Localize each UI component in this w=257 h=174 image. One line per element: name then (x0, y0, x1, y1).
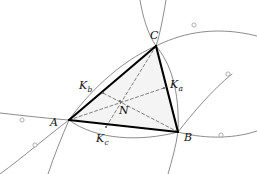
curve-marker-lower-left (33, 143, 37, 147)
label-b: B (183, 131, 192, 144)
label-a: A (49, 116, 58, 129)
point-kc (105, 126, 107, 128)
label-kc: Kc (95, 132, 110, 147)
curve-marker-upper-right (192, 23, 196, 27)
figure-canvas: ABCNKaKbKc (0, 0, 257, 174)
point-kb (102, 92, 104, 94)
point-ka (163, 87, 165, 89)
curve-marker-left (20, 118, 24, 122)
label-kb: Kb (78, 79, 93, 94)
curve-marker-lower-right (219, 133, 223, 137)
curve-B-down (168, 132, 178, 174)
curve-left-arm-upper (0, 113, 69, 120)
curve-B-up-right (178, 74, 232, 132)
label-n: N (118, 104, 129, 117)
geometry-figure: ABCNKaKbKc (0, 0, 257, 174)
label-c: C (150, 29, 159, 42)
curve-C-to-upper-right-arc (156, 31, 257, 46)
point-n (119, 100, 121, 102)
label-ka: Ka (169, 78, 183, 93)
curve-marker-right-isolated (226, 72, 230, 76)
